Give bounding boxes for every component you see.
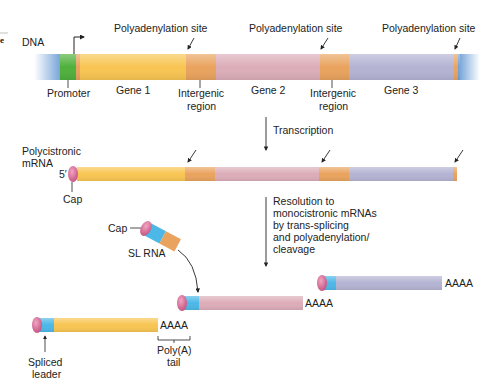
dna-shading [60,54,460,80]
polya-site-arrow-3 [455,38,460,49]
intergenic-label-2: Intergenic [310,87,356,99]
resolution-line-1: Resolution to [273,195,334,207]
mrna-product-gene3 [317,275,442,291]
polycistronic-mrna [68,166,457,182]
cleavage-arrow-1 [188,150,196,162]
trans-splice-arrow [178,250,198,292]
product3-shading [324,276,442,290]
product2-cap-icon [177,295,187,311]
polya-site-label-2: Polyadenylation site [249,22,343,34]
sl-cap-label: Cap [108,222,127,234]
trans-splicing-diagram: e DNA Polyadenylation site Polyadenylati… [0,0,490,392]
product3-cap-icon [317,275,327,291]
polya-tail-label: Poly(A) [157,344,191,356]
cleavage-arrow-2 [322,150,330,162]
product1-cap-icon [32,317,42,333]
five-prime-label: 5′ [59,168,67,180]
polya-site-label-3: Polyadenylation site [382,22,476,34]
product3-polya: AAAA [445,277,473,289]
polycistronic-label-b: mRNA [22,157,53,169]
spliced-leader-label-b: leader [32,368,62,380]
dna-right-flank [458,54,480,80]
mrna-product-gene1 [32,317,158,333]
polya-site-arrow-2 [321,38,328,49]
gene2-label: Gene 2 [251,84,286,96]
resolution-line-3: by trans-splicing [273,219,349,231]
transcription-start-arrow [74,37,84,54]
gene1-label: Gene 1 [116,84,151,96]
resolution-line-2: monocistronic mRNAs [273,207,377,219]
polya-site-label-1: Polyadenylation site [114,22,208,34]
intergenic-label-1: Intergenic [178,87,224,99]
resolution-line-5: cleavage [273,243,315,255]
product1-shading [38,318,158,332]
cap-label: Cap [63,193,82,205]
spliced-leader-label: Spliced [28,356,63,368]
dna-strand [34,54,480,80]
product2-shading [183,296,303,310]
polya-site-arrow-1 [188,38,194,49]
polycistronic-label: Polycistronic [22,145,81,157]
product1-polya: AAAA [160,319,188,331]
intergenic-label-1b: region [187,100,216,112]
cap-icon [68,166,78,182]
sl-rna-label: SL RNA [128,247,166,259]
dna-label: DNA [22,36,44,48]
transcription-label: Transcription [273,124,333,136]
corner-mark: e [0,35,4,45]
mrna-product-gene2 [177,295,303,311]
gene3-label: Gene 3 [384,84,419,96]
promoter-label: Promoter [47,87,91,99]
polya-tail-bracket [158,336,190,343]
cleavage-arrow-3 [455,150,463,162]
intergenic-label-2b: region [319,100,348,112]
polya-tail-label-b: tail [167,356,180,368]
resolution-line-4: and polyadenylation/ [273,231,369,243]
mrna-shading [77,167,457,181]
dna-left-flank [34,54,62,80]
product2-polya: AAAA [305,297,333,309]
